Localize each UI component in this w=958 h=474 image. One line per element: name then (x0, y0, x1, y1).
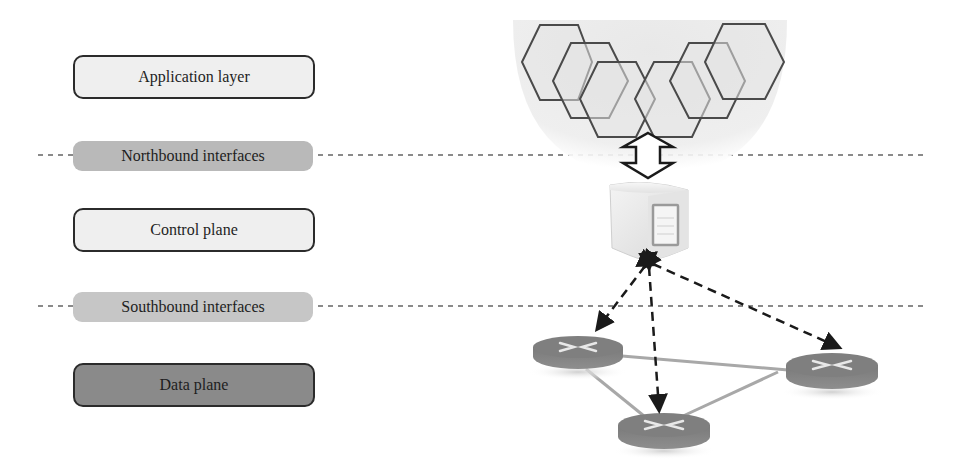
control-plane-box: Control plane (73, 208, 315, 252)
router-icon-right (780, 353, 884, 400)
application-layer-box: Application layer (73, 55, 315, 99)
data-plane-box: Data plane (73, 363, 315, 407)
control-plane-label: Control plane (150, 221, 238, 239)
northbound-interfaces-label: Northbound interfaces (121, 147, 265, 165)
southbound-interfaces-pill: Southbound interfaces (73, 292, 313, 322)
server-panel (653, 205, 678, 245)
server-icon (610, 182, 688, 262)
router-icon-left (528, 336, 628, 380)
data-plane-label: Data plane (160, 376, 229, 394)
application-layer-label: Application layer (138, 68, 250, 86)
switch-links (586, 356, 788, 416)
router-icon-bottom (612, 413, 716, 459)
southbound-interfaces-label: Southbound interfaces (121, 298, 265, 316)
northbound-interfaces-pill: Northbound interfaces (73, 141, 313, 171)
